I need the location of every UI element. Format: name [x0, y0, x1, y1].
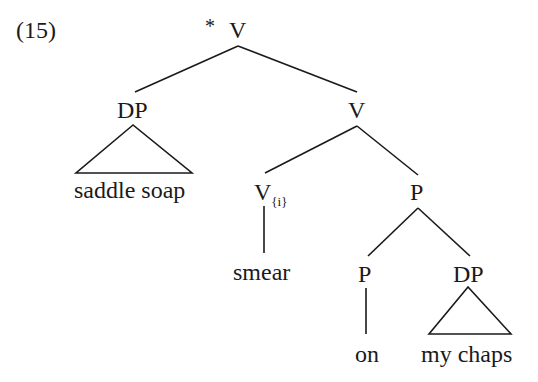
dp-subject-node: DP — [117, 98, 148, 122]
p-head-node: P — [358, 262, 371, 286]
ungrammatical-star: * — [205, 16, 215, 36]
dp-object-text: my chaps — [421, 342, 512, 366]
p-head-text: on — [355, 342, 379, 366]
p-bar-node: P — [410, 180, 423, 204]
v-head-subscript: {i} — [271, 194, 287, 209]
root-node-v: V — [229, 18, 246, 42]
v-bar-node: V — [348, 98, 365, 122]
dp-object-node: DP — [453, 262, 484, 286]
dp-subject-text: saddle soap — [74, 178, 185, 202]
example-number: (15) — [16, 18, 56, 42]
v-head-node: V{i} — [254, 180, 287, 204]
v-head-text: smear — [233, 260, 290, 284]
